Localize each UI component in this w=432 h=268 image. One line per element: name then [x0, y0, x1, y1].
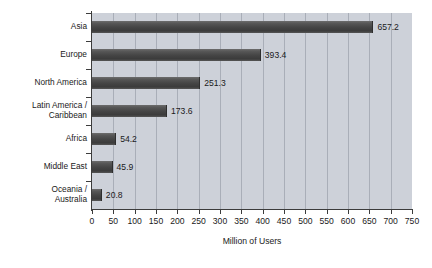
bar-value-label: 54.2: [120, 133, 137, 145]
x-axis-tick-label: 50: [109, 216, 119, 226]
x-axis-tick-label: 700: [383, 216, 397, 226]
gridline: [220, 13, 221, 209]
gridline: [284, 13, 285, 209]
bar-chart: AsiaEuropeNorth AmericaLatin America / C…: [0, 0, 432, 268]
category-label: Europe: [0, 50, 87, 60]
x-axis-tick-label: 750: [405, 216, 419, 226]
gridline: [263, 13, 264, 209]
x-axis-tick-label: 150: [149, 216, 163, 226]
category-label: North America: [0, 78, 87, 88]
category-label: Middle East: [0, 162, 87, 172]
x-axis-tick: [135, 210, 136, 214]
x-axis-title: Million of Users: [92, 236, 412, 246]
bar-value-label: 20.8: [106, 189, 123, 201]
category-label: Oceania / Australia: [0, 185, 87, 204]
bar: [92, 21, 373, 33]
y-axis-tick: [86, 69, 91, 70]
y-axis-line: [91, 11, 92, 211]
x-axis-tick-label: 650: [362, 216, 376, 226]
gridline: [305, 13, 306, 209]
bar: [92, 161, 113, 173]
bar-value-label: 657.2: [377, 21, 399, 33]
x-axis-tick-label: 500: [298, 216, 312, 226]
category-label: Africa: [0, 134, 87, 144]
bar-value-label: 251.3: [204, 77, 226, 89]
bar-value-label: 173.6: [171, 105, 193, 117]
gridline: [348, 13, 349, 209]
x-axis-tick: [177, 210, 178, 214]
x-axis-tick-label: 450: [277, 216, 291, 226]
bar: [92, 49, 261, 61]
x-axis-tick: [412, 210, 413, 214]
x-axis-tick-label: 100: [127, 216, 141, 226]
x-axis-line: [91, 209, 413, 210]
category-label: Latin America / Caribbean: [0, 101, 87, 120]
y-axis-tick: [86, 41, 91, 42]
x-axis-tick-label: 0: [90, 216, 95, 226]
x-axis-tick-label: 350: [234, 216, 248, 226]
gridline: [241, 13, 242, 209]
y-axis-tick: [86, 97, 91, 98]
bar: [92, 77, 200, 89]
y-axis-tick: [86, 181, 91, 182]
x-axis-tick: [113, 210, 114, 214]
y-axis-tick: [86, 125, 91, 126]
gridline: [369, 13, 370, 209]
bar: [92, 189, 102, 201]
bar: [92, 133, 116, 145]
gridline: [391, 13, 392, 209]
plot-area: 657.2393.4251.3173.654.245.920.8: [92, 13, 412, 209]
x-axis-tick: [284, 210, 285, 214]
gridline: [199, 13, 200, 209]
x-axis-tick: [305, 210, 306, 214]
x-axis-tick: [391, 210, 392, 214]
x-axis-tick: [92, 210, 93, 214]
bar-value-label: 45.9: [117, 161, 134, 173]
y-axis-tick: [86, 13, 91, 14]
bar-value-label: 393.4: [265, 49, 287, 61]
x-axis-tick-label: 600: [341, 216, 355, 226]
x-axis-tick-label: 300: [213, 216, 227, 226]
x-axis-tick-label: 550: [319, 216, 333, 226]
x-axis-tick: [348, 210, 349, 214]
x-axis-tick: [327, 210, 328, 214]
y-axis-tick: [86, 153, 91, 154]
x-axis-tick: [263, 210, 264, 214]
gridline: [327, 13, 328, 209]
x-axis-tick: [241, 210, 242, 214]
bar: [92, 105, 167, 117]
x-axis-tick: [220, 210, 221, 214]
x-axis-tick-label: 250: [191, 216, 205, 226]
category-label: Asia: [0, 22, 87, 32]
x-axis-tick: [369, 210, 370, 214]
x-axis-tick-label: 200: [170, 216, 184, 226]
category-axis-labels: AsiaEuropeNorth AmericaLatin America / C…: [0, 13, 87, 209]
x-axis-tick: [156, 210, 157, 214]
x-axis-tick: [199, 210, 200, 214]
x-axis-tick-label: 400: [255, 216, 269, 226]
